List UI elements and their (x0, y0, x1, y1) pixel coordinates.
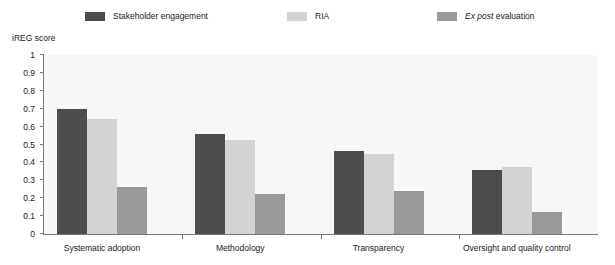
y-tick-label: 0.9 (23, 68, 35, 78)
y-axis-title: iREG score (12, 33, 55, 43)
bar (532, 212, 562, 234)
chart-figure: Stakeholder engagement RIA Ex post evalu… (0, 0, 615, 265)
y-tick-mark (40, 108, 44, 109)
y-tick-mark (40, 90, 44, 91)
y-tick-label: 0.8 (23, 86, 35, 96)
y-tick-mark (40, 215, 44, 216)
legend-swatch-icon-1 (287, 12, 307, 21)
y-tick-label: 0.7 (23, 104, 35, 114)
bar (394, 191, 424, 234)
legend-entry-ria: RIA (287, 8, 329, 24)
y-tick-0.5: 0.5 (0, 140, 44, 150)
y-tick-0: 0 (0, 229, 44, 239)
y-tick-label: 0.1 (23, 211, 35, 221)
category-label: Systematic adoption (64, 243, 141, 254)
bar (472, 170, 502, 234)
y-tick-0.2: 0.2 (0, 193, 44, 203)
bar (57, 109, 87, 234)
chart-legend: Stakeholder engagement RIA Ex post evalu… (0, 8, 615, 26)
y-tick-label: 0.6 (23, 122, 35, 132)
y-tick-0.9: 0.9 (0, 68, 44, 78)
y-tick-1: 1 (0, 50, 44, 60)
category-label: Methodology (216, 243, 265, 254)
y-tick-mark (40, 197, 44, 198)
bar (334, 151, 364, 234)
y-tick-label: 0.5 (23, 140, 35, 150)
y-tick-0.3: 0.3 (0, 175, 44, 185)
bar (117, 187, 147, 234)
legend-swatch-icon-0 (85, 12, 105, 21)
bar (502, 167, 532, 234)
legend-label-0: Stakeholder engagement (113, 11, 208, 21)
category-label: Transparency (353, 243, 405, 254)
y-tick-label: 0.2 (23, 193, 35, 203)
y-tick-mark (40, 144, 44, 145)
legend-entry-ex-post-evaluation: Ex post evaluation (437, 8, 535, 24)
x-tick-mark (182, 235, 183, 239)
category-label: Oversight and quality control (463, 243, 571, 254)
legend-entry-stakeholder-engagement: Stakeholder engagement (85, 8, 208, 24)
bar (87, 119, 117, 234)
y-tick-label: 0.3 (23, 175, 35, 185)
y-tick-mark (40, 126, 44, 127)
y-tick-mark (40, 72, 44, 73)
y-tick-0.7: 0.7 (0, 104, 44, 114)
y-tick-label: 0 (30, 229, 35, 239)
x-tick-mark (321, 235, 322, 239)
bar (255, 194, 285, 234)
y-tick-0.8: 0.8 (0, 86, 44, 96)
x-tick-mark (459, 235, 460, 239)
legend-label-1: RIA (315, 11, 329, 21)
legend-swatch-icon-2 (437, 12, 457, 21)
legend-label-2-rest: evaluation (496, 11, 535, 21)
y-tick-0.6: 0.6 (0, 122, 44, 132)
y-tick-label: 1 (30, 50, 35, 60)
y-tick-0.1: 0.1 (0, 211, 44, 221)
y-tick-mark (40, 179, 44, 180)
bar (195, 134, 225, 234)
y-tick-0.4: 0.4 (0, 157, 44, 167)
legend-label-2-italic: Ex post (465, 11, 493, 21)
y-tick-label: 0.4 (23, 157, 35, 167)
y-tick-mark (40, 54, 44, 55)
bar (364, 154, 394, 234)
bar (225, 140, 255, 234)
legend-label-2: Ex post evaluation (465, 11, 535, 21)
y-tick-mark (40, 161, 44, 162)
y-tick-mark (40, 233, 44, 234)
